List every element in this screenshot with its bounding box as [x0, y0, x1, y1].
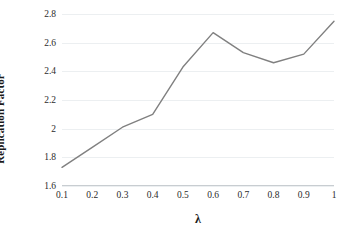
- y-tick-label: 2.2: [30, 95, 56, 105]
- plot-area: [62, 14, 334, 186]
- x-tick-label: 0.3: [107, 190, 137, 200]
- x-axis-title: λ: [62, 212, 334, 227]
- y-axis-title: Replication Factor: [0, 0, 30, 238]
- data-series-svg: [62, 14, 334, 186]
- y-tick-label: 2.8: [30, 9, 56, 19]
- x-tick-label: 0.8: [259, 190, 289, 200]
- x-tick-label: 0.2: [77, 190, 107, 200]
- x-tick-label: 0.9: [289, 190, 319, 200]
- x-tick-label: 0.1: [47, 190, 77, 200]
- y-tick-label: 2.4: [30, 66, 56, 76]
- series-line-replication-factor: [62, 21, 334, 167]
- x-tick-label: 0.7: [228, 190, 258, 200]
- gridline: [62, 186, 334, 187]
- x-tick-label: 0.4: [138, 190, 168, 200]
- y-tick-label: 1.8: [30, 152, 56, 162]
- x-tick-label: 1: [319, 190, 349, 200]
- y-tick-label: 2.6: [30, 38, 56, 48]
- x-tick-label: 0.6: [198, 190, 228, 200]
- replication-factor-line-chart: Replication Factor 1.61.822.22.42.62.8 0…: [0, 0, 350, 238]
- y-tick-label: 2: [30, 124, 56, 134]
- x-tick-label: 0.5: [168, 190, 198, 200]
